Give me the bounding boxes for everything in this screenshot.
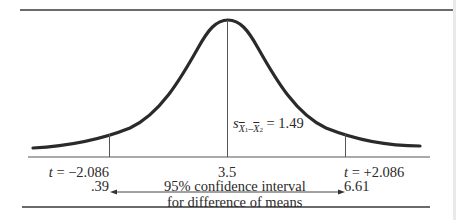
arrowhead-left-icon [110,190,117,195]
se-sub-2: 2 [259,126,263,134]
t-distribution-curve [33,20,420,148]
t-distribution-figure: sX1–X2 = 1.49 t = −2.086 .39 3.5 95% con… [0,0,456,220]
left-bound-label: .39 [91,179,109,194]
standard-error-label: sX1–X2 = 1.49 [233,116,304,134]
ci-label-line1: 95% confidence interval [164,179,306,194]
se-subscript: X1–X2 [239,123,263,134]
se-value: = 1.49 [267,115,304,131]
left-t-var: t [49,164,53,180]
ci-label-line2: for difference of means [167,195,302,210]
right-bound-label: 6.61 [344,179,369,194]
